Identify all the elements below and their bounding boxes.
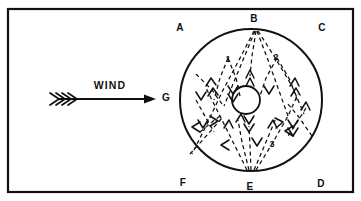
dash-lower-left-short: [200, 116, 220, 132]
figure-root: A B C D E F G 1 2 3 WIND: [0, 0, 361, 201]
eddy-arrow-down-1: [196, 92, 206, 100]
wind-arrow-group: [50, 93, 156, 105]
dash-apex-one: [214, 58, 228, 100]
dash-b-right-mid: [257, 31, 288, 116]
eddy-arrow-down-5: [264, 86, 274, 94]
label-c: C: [318, 22, 325, 33]
label-b: B: [250, 13, 257, 24]
eddy-arrow-up-5: [290, 78, 299, 86]
wind-diagram-svg: A B C D E F G 1 2 3 WIND: [0, 0, 361, 201]
label-d: D: [317, 178, 324, 189]
eddy-arrow-down-8: [252, 138, 262, 146]
eddy-arrow-up-10: [224, 120, 233, 128]
eddy-arrow-up-2: [246, 78, 254, 86]
dash-lower-right-diagonal: [288, 104, 312, 136]
number-2: 2: [273, 52, 278, 62]
label-e: E: [247, 181, 254, 192]
label-g: G: [162, 92, 170, 103]
eddy-arrow-left-2: [221, 140, 229, 150]
label-a: A: [176, 22, 183, 33]
eddy-arrow-down-6: [244, 116, 254, 124]
wind-label: WIND: [94, 79, 126, 91]
eddy-arrow-up-9: [236, 114, 245, 122]
label-f: F: [180, 177, 186, 188]
eddy-arrow-down-7: [244, 124, 254, 132]
dash-apex-two-left: [260, 58, 277, 96]
dash-b-right-long: [258, 31, 304, 114]
dashed-flow-lines: [190, 31, 312, 170]
eddy-arrow-left-1: [192, 122, 200, 132]
number-1: 1: [225, 54, 230, 64]
eddy-arrow-up-3: [206, 78, 216, 86]
wind-arrow-head: [144, 95, 156, 104]
number-3: 3: [269, 139, 274, 149]
